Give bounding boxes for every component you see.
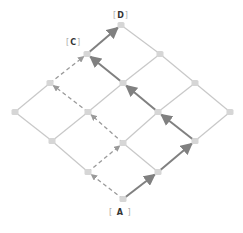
solid-arrow (87, 28, 118, 54)
dashed-arrow (91, 174, 123, 199)
lattice-node (227, 109, 234, 115)
grid-edge (15, 83, 50, 112)
lattice-node (120, 196, 127, 202)
grid-edge (195, 112, 230, 141)
dashed-arrow (53, 85, 88, 112)
lattice-node (192, 80, 199, 86)
solid-arrow (123, 174, 155, 199)
lattice-node (155, 109, 162, 115)
lattice-node (85, 169, 92, 175)
solid-arrow (126, 86, 158, 112)
dashed-arrow (88, 146, 120, 172)
lattice-node (120, 80, 127, 86)
grid-edges (15, 25, 230, 172)
grid-edge (88, 83, 123, 112)
grid-edge (195, 83, 230, 112)
grid-edge (123, 143, 158, 172)
dashed-arrow (50, 56, 84, 83)
lattice-node (157, 51, 164, 57)
grid-edge (52, 141, 88, 172)
grid-edge (52, 112, 88, 141)
lattice-node (85, 109, 92, 115)
dashed-arrow (91, 115, 123, 143)
solid-path (87, 28, 195, 199)
lattice-diagram (0, 0, 243, 233)
lattice-node (192, 138, 199, 144)
label-d: [D] (113, 11, 129, 20)
grid-edge (123, 54, 160, 83)
lattice-node (84, 51, 91, 57)
grid-edge (158, 83, 195, 112)
lattice-nodes (12, 22, 234, 202)
lattice-node (155, 169, 162, 175)
lattice-node (12, 109, 19, 115)
dashed-path (50, 56, 123, 199)
grid-edge (160, 54, 195, 83)
solid-arrow (158, 144, 192, 172)
grid-edge (15, 112, 52, 141)
grid-edge (121, 25, 160, 54)
solid-arrow (161, 114, 195, 141)
lattice-node (118, 22, 125, 28)
lattice-node (120, 140, 127, 146)
label-a: [ A ] (109, 208, 132, 217)
lattice-node (47, 80, 54, 86)
grid-edge (123, 112, 158, 143)
solid-arrow (90, 57, 123, 83)
label-c: [C] (66, 38, 81, 47)
lattice-node (49, 138, 56, 144)
